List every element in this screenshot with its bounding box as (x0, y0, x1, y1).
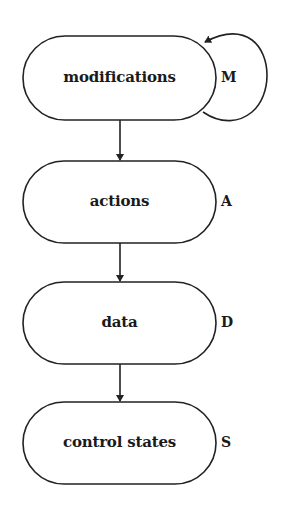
node-modifications-tag: M (221, 68, 237, 86)
node-actions-tag: A (221, 192, 232, 210)
node-data-tag: D (221, 313, 233, 331)
node-control-states-label: control states (23, 433, 216, 451)
node-modifications-label: modifications (23, 68, 216, 86)
node-data-label: data (23, 313, 216, 331)
node-control-states-tag: S (221, 433, 231, 451)
node-actions-label: actions (23, 192, 216, 210)
